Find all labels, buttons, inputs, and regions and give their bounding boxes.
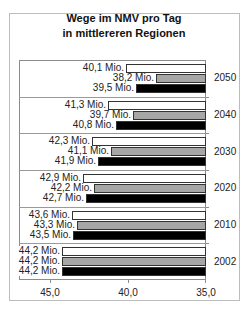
data-label: 43,5 Mio.: [29, 230, 72, 240]
category-label-2030: 2030: [214, 146, 236, 157]
bar-2020-series-1: [83, 174, 206, 183]
bar-2002-series-3: [62, 267, 206, 276]
chart-title-line-2: in mittlereren Regionen: [0, 26, 248, 41]
bar-2030-series-2: [111, 147, 206, 156]
bar-2040-series-3: [116, 121, 206, 130]
y-tick: [206, 133, 209, 134]
group-separator: [19, 207, 206, 208]
bar-2050-series-2: [156, 74, 206, 83]
group-separator: [19, 170, 206, 171]
group-separator: [19, 97, 206, 98]
category-label-2002: 2002: [214, 256, 236, 267]
x-tick-label-45: 45,0: [35, 287, 65, 298]
y-tick: [206, 207, 209, 208]
bar-2002-series-2: [62, 257, 206, 266]
x-tick-45: [50, 280, 51, 283]
bar-2030-series-1: [92, 137, 206, 146]
bar-2020-series-3: [86, 194, 206, 203]
chart-title: Wege im NMV pro Tag in mittlereren Regio…: [0, 11, 248, 41]
bar-2010-series-2: [77, 221, 206, 230]
group-separator: [19, 133, 206, 134]
category-label-2010: 2010: [214, 219, 236, 230]
data-label: 39,5 Mio.: [92, 83, 135, 93]
category-label-2020: 2020: [214, 182, 236, 193]
x-tick-35: [205, 280, 206, 283]
bar-2030-series-3: [98, 157, 206, 166]
data-label: 44,2 Mio.: [18, 266, 61, 276]
y-tick: [206, 97, 209, 98]
x-tick-40: [128, 280, 129, 283]
bar-2010-series-3: [73, 231, 206, 240]
x-tick-label-35: 35,0: [191, 287, 221, 298]
bar-2002-series-1: [62, 247, 206, 256]
group-separator: [19, 243, 206, 244]
bar-2040-series-2: [133, 111, 206, 120]
data-label: 42,7 Mio.: [42, 193, 85, 203]
y-tick: [206, 243, 209, 244]
data-label: 41,9 Mio.: [54, 156, 97, 166]
category-label-2050: 2050: [214, 72, 236, 83]
chart-title-line-1: Wege im NMV pro Tag: [0, 11, 248, 26]
y-tick: [206, 170, 209, 171]
bar-2010-series-1: [72, 211, 206, 220]
bar-2020-series-2: [94, 184, 206, 193]
bar-2050-series-3: [136, 84, 206, 93]
category-label-2040: 2040: [214, 109, 236, 120]
x-tick-label-40: 40,0: [113, 287, 143, 298]
data-label: 40,8 Mio.: [72, 120, 115, 130]
